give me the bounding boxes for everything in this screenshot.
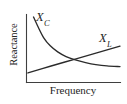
series-label-xl: XL (99, 32, 111, 47)
x-axis-label: Frequency (26, 84, 120, 96)
series-line-xl (28, 46, 120, 73)
series-label-xc-symbol: X (36, 10, 44, 24)
reactance-vs-frequency-figure: Reactance Frequency XC XL (0, 0, 127, 104)
series-label-xl-subscript: L (107, 39, 112, 49)
series-label-xc-subscript: C (44, 18, 50, 28)
y-axis-label: Reactance (8, 9, 19, 81)
series-label-xc: XC (36, 11, 49, 26)
series-label-xl-symbol: X (99, 31, 107, 45)
